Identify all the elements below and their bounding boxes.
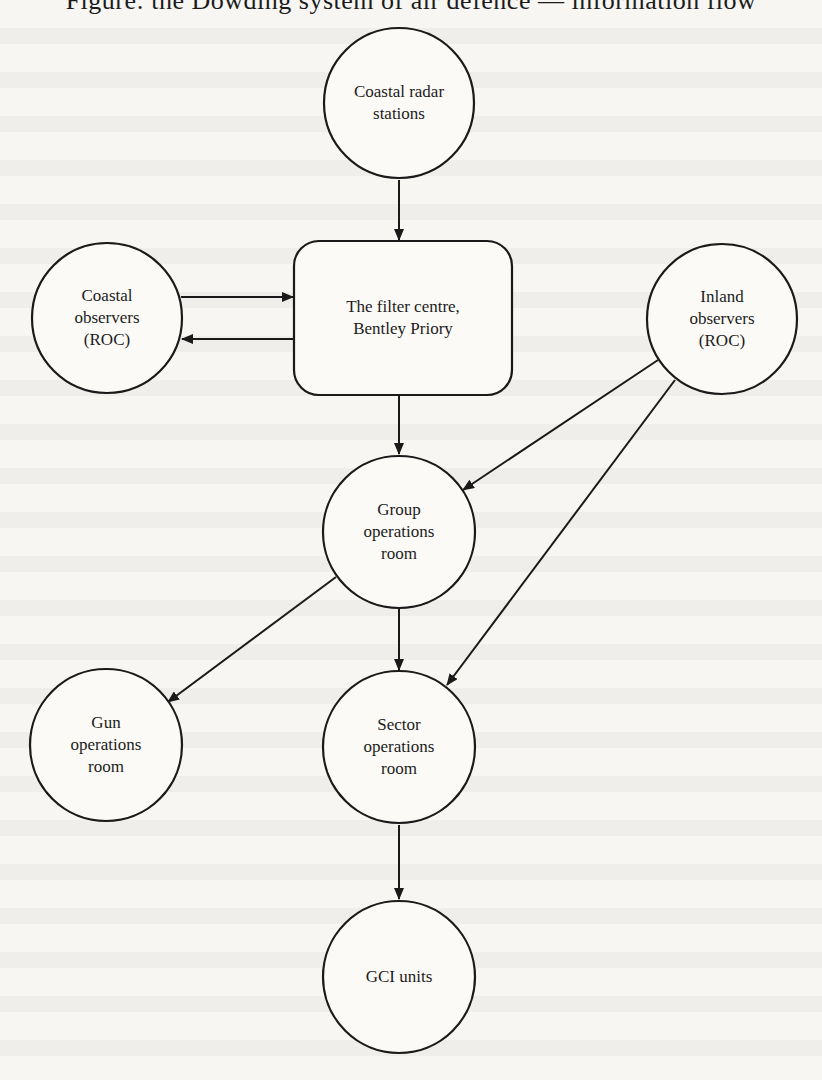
node-group-operations-room: [323, 456, 475, 608]
node-coastal-observers: [32, 243, 182, 393]
page-background: Figure: the Dowding system of air defenc…: [0, 0, 822, 1080]
node-filter-centre: [294, 241, 512, 395]
node-inland-observers: [647, 244, 797, 394]
node-gun-operations-room: [30, 669, 182, 821]
node-coastal-radar-stations: [324, 28, 474, 178]
edge-group-to-gun-ops: [168, 577, 336, 702]
flow-diagram: [0, 0, 822, 1080]
node-gci-units: [323, 901, 475, 1053]
node-sector-operations-room: [323, 671, 475, 823]
